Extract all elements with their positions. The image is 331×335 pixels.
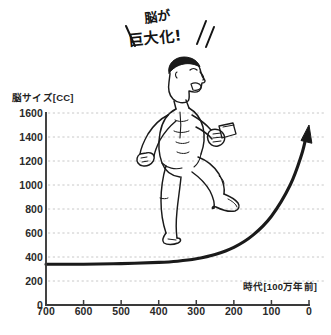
brain-size-chart-figure: 脳が 巨大化! 脳サイズ[CC] 時代[100万年前] 020040060080…	[0, 0, 331, 335]
plot-area	[0, 0, 331, 335]
running-human-figure-icon	[137, 57, 239, 245]
